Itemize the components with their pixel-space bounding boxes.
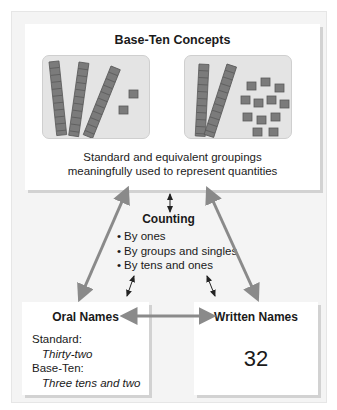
double-arrow-counting-to-oral-icon xyxy=(127,276,134,296)
double-arrow-counting-to-written-icon xyxy=(207,276,215,296)
double-arrow-written-to-concepts-icon xyxy=(208,190,257,298)
double-arrow-oral-to-concepts-icon xyxy=(80,190,127,298)
connector-arrows xyxy=(0,0,337,410)
